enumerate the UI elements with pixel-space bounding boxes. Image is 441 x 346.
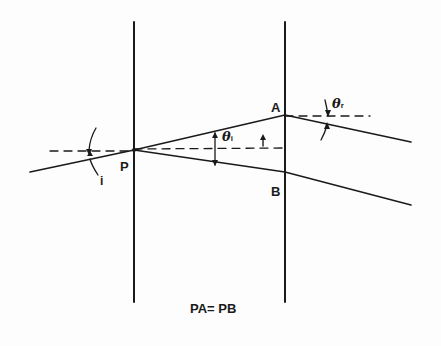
label-theta-outer: θr — [332, 97, 344, 110]
theta-outer-symbol: θ — [332, 96, 341, 111]
emergent-ray-A — [285, 115, 411, 142]
ray-P-to-B — [134, 150, 285, 172]
theta-inner-arrowhead-top — [212, 132, 218, 138]
emergent-ray-B — [285, 172, 411, 205]
incident-ray — [30, 150, 134, 172]
diagram-canvas: P A B i θi θr t PA= PB — [0, 0, 441, 346]
label-incidence-i: i — [100, 175, 103, 187]
point-P-dot — [132, 148, 136, 152]
theta-inner-arrowhead-bottom — [212, 160, 218, 166]
reference-dashed-middle — [134, 148, 285, 149]
label-B: B — [271, 185, 280, 198]
caption-equation: PA= PB — [190, 302, 236, 315]
theta-inner-subscript: i — [231, 134, 233, 143]
label-P: P — [120, 160, 129, 173]
incidence-angle-arc-lower — [90, 159, 98, 175]
label-theta-inner: θi — [222, 130, 233, 143]
incidence-angle-arc-upper — [89, 128, 96, 150]
label-A: A — [271, 101, 280, 114]
ray-diagram — [0, 0, 441, 346]
theta-outer-subscript: r — [341, 101, 344, 110]
thickness-arrowhead — [260, 134, 266, 140]
theta-inner-symbol: θ — [222, 129, 231, 144]
